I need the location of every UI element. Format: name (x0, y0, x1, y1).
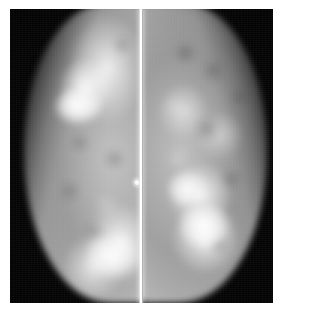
panel-left-view (10, 9, 140, 303)
panel-right-view (143, 9, 273, 303)
breast-tissue-right (143, 9, 267, 303)
mammogram-figure (0, 0, 312, 318)
radiograph-plate (10, 9, 273, 303)
breast-tissue-left (24, 9, 140, 303)
skin-marker-icon (134, 179, 140, 186)
view-separator-line (139, 9, 143, 303)
